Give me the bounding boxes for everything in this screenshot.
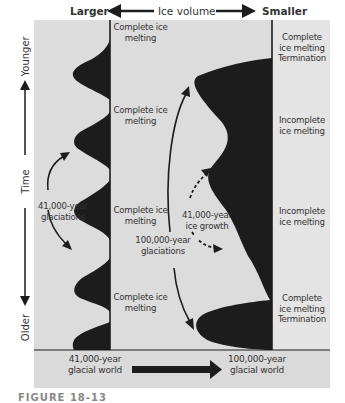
right-label-2-line-1: Incomplete (274, 115, 330, 126)
right-label-1-line-3: Termination (274, 53, 330, 64)
right-label-3: Incomplete ice melting (274, 206, 330, 227)
right-label-4: Complete ice melting Termination (274, 293, 330, 325)
right-label-4-line-3: Termination (274, 314, 330, 325)
left-label-4: Complete ice melting (113, 292, 168, 313)
footer-100k-world: 100,000-year glacial world (224, 354, 290, 375)
left-label-3: Complete ice melting (113, 205, 168, 226)
annotation-41k-glaciations: 41,000-year glaciations (36, 201, 90, 222)
smaller-arrow-icon (216, 4, 256, 18)
right-label-3-line-2: ice melting (274, 217, 330, 228)
axis-time: Time (20, 167, 31, 197)
right-label-1: Complete ice melting Termination (274, 32, 330, 64)
right-label-2: Incomplete ice melting (274, 115, 330, 136)
annotation-100k-glaciations: 100,000-year glaciations (128, 235, 198, 256)
right-label-1-line-1: Complete (274, 32, 330, 43)
larger-arrow-icon (107, 4, 154, 18)
right-label-4-line-2: ice melting (274, 304, 330, 315)
axis-older: Older (20, 312, 31, 344)
right-label-4-line-1: Complete (274, 293, 330, 304)
right-label-2-line-2: ice melting (274, 126, 330, 137)
footer-41k-world: 41,000-year glacial world (64, 354, 126, 375)
right-label-3-line-1: Incomplete (274, 206, 330, 217)
right-label-1-line-2: ice melting (274, 43, 330, 54)
axis-younger: Younger (20, 39, 31, 77)
figure-caption: FIGURE 18-13 (18, 392, 107, 403)
annotation-41k-ice-growth: 41,000-year ice growth (178, 210, 236, 231)
left-label-2: Complete ice melting (113, 105, 168, 126)
left-label-1: Complete ice melting (113, 22, 168, 43)
